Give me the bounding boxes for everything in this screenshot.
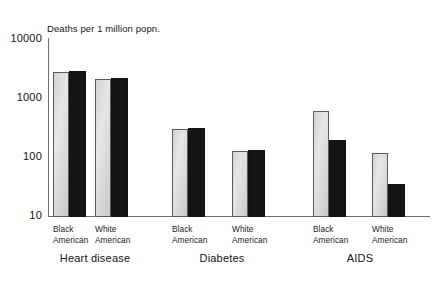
y-tick-label-1000: 1000 [0, 91, 42, 103]
group-label-aids: AIDS [305, 252, 415, 264]
category-label-aids-white: White American [372, 224, 417, 245]
y-tick-label-100: 100 [0, 150, 42, 162]
bar-aids-white-light [372, 153, 388, 217]
bar-diabetes-black-dark [188, 128, 205, 217]
bar-aids-black-light [313, 111, 329, 217]
bar-aids-black-dark [329, 140, 346, 217]
bar-aids-white-dark [388, 184, 405, 217]
bar-heart-disease-white-light [95, 79, 111, 217]
y-tick-label-10000: 10000 [0, 32, 42, 44]
bar-heart-disease-black-light [53, 72, 69, 217]
group-label-diabetes: Diabetes [167, 252, 277, 264]
bar-diabetes-white-dark [248, 150, 265, 217]
y-axis-line [48, 38, 49, 217]
bar-heart-disease-black-dark [69, 71, 86, 217]
y-tick-label-10: 10 [0, 209, 42, 221]
bar-diabetes-black-light [172, 129, 188, 217]
bar-diabetes-white-light [232, 151, 248, 217]
group-label-heart-disease: Heart disease [40, 252, 150, 264]
category-label-heart-disease-white: White American [95, 224, 140, 245]
category-label-heart-disease-black: Black American [53, 224, 98, 245]
category-label-diabetes-black: Black American [172, 224, 217, 245]
bar-chart: Deaths per 1 million popn. 10000 1000 10… [0, 0, 438, 282]
category-label-aids-black: Black American [313, 224, 358, 245]
bar-heart-disease-white-dark [111, 78, 128, 217]
y-axis-title: Deaths per 1 million popn. [47, 23, 160, 34]
category-label-diabetes-white: White American [232, 224, 277, 245]
